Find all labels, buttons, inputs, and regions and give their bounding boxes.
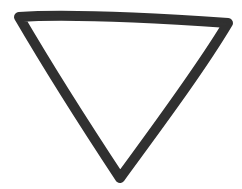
triangle-outline xyxy=(19,16,228,178)
inverted-triangle-icon xyxy=(0,0,242,189)
drawing-canvas: Hand-drawn inverted triangle outline xyxy=(0,0,242,189)
